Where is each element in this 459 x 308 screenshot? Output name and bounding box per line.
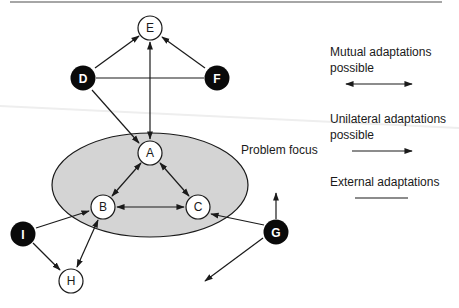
- svg-text:D: D: [79, 72, 88, 86]
- node-b: B: [91, 195, 115, 219]
- legend-mutual-label-1: Mutual adaptations: [330, 45, 431, 60]
- svg-text:F: F: [213, 72, 220, 86]
- node-e: E: [138, 16, 162, 40]
- node-c: C: [186, 195, 210, 219]
- legend-mutual-label-2: possible: [330, 61, 374, 76]
- edge-d-e: [95, 36, 139, 68]
- svg-text:E: E: [146, 21, 154, 35]
- edge-f-e: [162, 37, 205, 68]
- node-h: H: [59, 269, 83, 293]
- edge-b-h: [77, 220, 98, 267]
- legend-external-label: External adaptations: [330, 175, 439, 190]
- svg-text:C: C: [194, 200, 203, 214]
- problem-focus-label: Problem focus: [241, 143, 318, 158]
- legend-unilateral-label-1: Unilateral adaptations: [330, 112, 446, 127]
- node-a: A: [138, 141, 162, 165]
- svg-text:A: A: [146, 146, 154, 160]
- svg-text:B: B: [99, 200, 107, 214]
- node-g: G: [264, 220, 289, 245]
- node-d: D: [71, 66, 96, 91]
- node-f: F: [205, 66, 230, 91]
- node-i: I: [11, 222, 36, 247]
- svg-text:H: H: [67, 274, 76, 288]
- legend-unilateral-label-2: possible: [330, 128, 374, 143]
- edge-d-a: [92, 90, 139, 143]
- svg-text:I: I: [21, 228, 24, 242]
- edge-i-h: [33, 243, 60, 270]
- edge-g-downleft: [205, 238, 263, 281]
- svg-text:G: G: [271, 226, 280, 240]
